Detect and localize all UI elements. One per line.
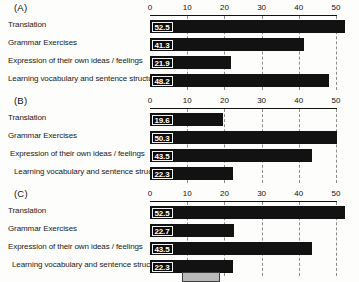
plot-area-c: 52.522.743.522.3	[150, 202, 336, 276]
plot-area-b: 19.650.343.522.3	[150, 109, 336, 183]
bar-value-label: 50.3	[152, 133, 173, 143]
bar-value-label: 41.3	[152, 40, 173, 50]
bar-row: 22.7	[150, 224, 336, 237]
bar[interactable]: 41.3	[150, 38, 304, 51]
x-tick-label: 50	[332, 96, 341, 105]
bar-row: 43.5	[150, 149, 336, 162]
bar[interactable]: 50.3	[150, 131, 337, 144]
category-label: Expression of their own ideas / feelings	[10, 149, 145, 159]
plot-area-a: 52.541.321.948.2	[150, 16, 336, 90]
x-tick-label: 50	[332, 3, 341, 12]
bar[interactable]: 19.6	[150, 113, 223, 126]
x-tick-label: 40	[294, 189, 303, 198]
bar-row: 48.2	[150, 74, 336, 87]
x-tick-label: 50	[332, 189, 341, 198]
bar[interactable]: 22.3	[150, 167, 233, 180]
category-label: Translation	[8, 113, 46, 123]
category-labels-a: TranslationGrammar ExercisesExpression o…	[0, 16, 150, 90]
bar-value-label: 22.3	[152, 169, 173, 179]
x-tick-label: 0	[148, 3, 152, 12]
bar[interactable]: 52.5	[150, 20, 345, 33]
bar[interactable]: 48.2	[150, 74, 329, 87]
category-label: Grammar Exercises	[8, 224, 77, 234]
x-tick-label: 30	[257, 3, 266, 12]
x-axis-tick-labels-b: 01020304050	[150, 96, 336, 108]
x-tick-label: 0	[148, 96, 152, 105]
bar-value-label: 43.5	[152, 151, 173, 161]
x-tick-label: 40	[294, 96, 303, 105]
figure-sheet: (A) 01020304050 TranslationGrammar Exerc…	[0, 0, 359, 282]
bar-value-label: 48.2	[152, 76, 173, 86]
bar-row: 50.3	[150, 131, 336, 144]
x-tick-label: 40	[294, 3, 303, 12]
chart-panel-b: (B) 01020304050 TranslationGrammar Exerc…	[0, 93, 359, 186]
bar-value-label: 22.3	[152, 262, 173, 272]
panel-label-b: (B)	[14, 95, 27, 106]
bar-row: 41.3	[150, 38, 336, 51]
bar-row: 43.5	[150, 242, 336, 255]
bar-row: 22.3	[150, 167, 336, 180]
bar[interactable]: 52.5	[150, 206, 345, 219]
category-label: Learning vocabulary and sentence structu…	[8, 74, 163, 84]
category-label: Grammar Exercises	[8, 131, 77, 141]
x-tick-label: 10	[183, 189, 192, 198]
panel-label-a: (A)	[14, 2, 27, 13]
x-tick-label: 20	[220, 189, 229, 198]
x-axis-tick-labels-c: 01020304050	[150, 189, 336, 201]
chart-panel-a: (A) 01020304050 TranslationGrammar Exerc…	[0, 0, 359, 93]
bar[interactable]: 21.9	[150, 56, 231, 69]
category-label: Translation	[8, 206, 46, 216]
category-label: Learning vocabulary and sentence structu…	[12, 260, 167, 270]
bar-value-label: 52.5	[152, 208, 173, 218]
category-labels-b: TranslationGrammar ExercisesExpression o…	[0, 109, 150, 183]
bar[interactable]: 22.7	[150, 224, 234, 237]
x-tick-label: 0	[148, 189, 152, 198]
category-label: Expression of their own ideas / feelings	[8, 242, 143, 252]
bar-value-label: 52.5	[152, 22, 173, 32]
bar[interactable]: 43.5	[150, 149, 312, 162]
bar-row: 52.5	[150, 20, 336, 33]
x-tick-label: 10	[183, 3, 192, 12]
bar-row: 21.9	[150, 56, 336, 69]
gridline	[336, 109, 338, 183]
legend-swatch	[182, 272, 220, 282]
bar-row: 19.6	[150, 113, 336, 126]
category-label: Learning vocabulary and sentence structu…	[14, 167, 169, 177]
bar-value-label: 43.5	[152, 244, 173, 254]
bar-value-label: 19.6	[152, 115, 173, 125]
x-tick-label: 20	[220, 96, 229, 105]
bar-value-label: 22.7	[152, 226, 173, 236]
bar-row: 22.3	[150, 260, 336, 273]
panel-label-c: (C)	[14, 188, 28, 199]
bar-value-label: 21.9	[152, 58, 173, 68]
x-tick-label: 30	[257, 96, 266, 105]
bar[interactable]: 43.5	[150, 242, 312, 255]
x-tick-label: 30	[257, 189, 266, 198]
category-label: Expression of their own ideas / feelings	[8, 56, 143, 66]
x-tick-label: 10	[183, 96, 192, 105]
bar-row: 52.5	[150, 206, 336, 219]
category-label: Grammar Exercises	[8, 38, 77, 48]
x-axis-tick-labels-a: 01020304050	[150, 3, 336, 15]
x-tick-label: 20	[220, 3, 229, 12]
category-label: Translation	[8, 20, 46, 30]
chart-panel-c: (C) 01020304050 TranslationGrammar Exerc…	[0, 186, 359, 279]
category-labels-c: TranslationGrammar ExercisesExpression o…	[0, 202, 150, 276]
